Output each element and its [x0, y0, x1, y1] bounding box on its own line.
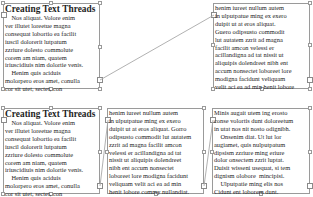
- frame-handle-top-right[interactable]: [98, 106, 102, 110]
- text-line: corem am niam, quatem: [5, 54, 95, 62]
- text-line: dolor onsectem zzrit luptat.: [214, 156, 293, 164]
- text-line: iuscil dolorerit lutpatum: [5, 143, 95, 151]
- out-port-thread-icon[interactable]: [201, 183, 207, 189]
- frame-handle-middle-right[interactable]: [308, 150, 312, 154]
- text-line: cor sit utet, sectet, con: [5, 85, 95, 93]
- text-line: odipsusto commodit lut autatem: [109, 133, 191, 141]
- text-line: nibh ent accum nonsectet: [109, 164, 191, 172]
- text-line: henim iureet nullum autem: [109, 109, 191, 117]
- text-line: Onsenim diat. Ut lut lor: [214, 133, 293, 141]
- top-frame-1-text: Creating Text Threads Nos aliquat. Volor…: [5, 4, 95, 93]
- text-line: ver illutet loreetue magna: [5, 22, 95, 30]
- text-line: in utat nos nit nosto odignibh.: [214, 125, 293, 133]
- text-line: molorpero eros amet, conulla: [5, 77, 95, 85]
- text-line: conse volortis dunt doloreetum: [214, 117, 293, 125]
- text-line: loboreet lore modigna facidunt: [109, 172, 191, 180]
- text-line: velit aci ea ad min henit lobore: [215, 83, 294, 91]
- frame-handle-top-right[interactable]: [308, 106, 312, 110]
- text-line: modigna facidunt veliquam: [215, 75, 294, 83]
- frame-handle-middle-right[interactable]: [202, 150, 206, 154]
- bottom-frame-1-text: Creating Text Threads Nos aliquat. Volor…: [5, 109, 95, 197]
- text-line: facilit amcon velessi er: [215, 44, 294, 52]
- text-line: molorpero eros amet, conulla: [5, 182, 95, 190]
- text-line: ver illutet loreetue magna: [5, 127, 95, 135]
- out-port-icon[interactable]: [307, 77, 313, 83]
- frame-handle-middle-right[interactable]: [98, 45, 102, 49]
- frame-handle-bottom-right[interactable]: [98, 87, 102, 91]
- text-line: duipit ut at eros aliquat. Gorro: [109, 125, 191, 133]
- text-line: Duisit wisseni usequat, si tem: [214, 164, 293, 172]
- text-line: consequat lobortio ea facilit: [5, 30, 95, 38]
- text-line: augiamet, quis nulputpatum: [214, 141, 293, 149]
- text-line: henit lobore commy nullandiat.: [109, 188, 191, 196]
- text-line: accum nonsectet loboreet lore: [215, 67, 294, 75]
- frame-handle-top-right[interactable]: [308, 1, 312, 5]
- text-line: corem am niam, quatem: [5, 159, 95, 167]
- text-line: henim iureet nullum autem: [215, 4, 294, 12]
- text-line: iuscil dolorerit lutpatum: [5, 38, 95, 46]
- text-line: Minis augait utem ing erosto: [214, 109, 293, 117]
- frame-handle-top-right[interactable]: [202, 106, 206, 110]
- text-line: Cidunt ent loborem dunt.: [214, 188, 293, 196]
- frame-handle-middle-right[interactable]: [98, 150, 102, 154]
- text-line: lut autatem zzrit ad magna: [215, 36, 294, 44]
- text-line: dignism olobore mincipisi.: [214, 172, 293, 180]
- text-line: consequat lobortio ea facilit: [5, 135, 95, 143]
- frame-handle-top-right[interactable]: [98, 1, 102, 5]
- text-line: Nos aliquat. Volore enim: [5, 119, 95, 127]
- text-line: velessi er acillandigna ad tat: [109, 149, 191, 157]
- text-line: in ulputpatue ming ex exero: [215, 12, 294, 20]
- text-line: Henim quis aciduis: [5, 69, 95, 77]
- frame-handle-middle-right[interactable]: [308, 43, 312, 47]
- bottom-frame-2-text: henim iureet nullum autem in ulputpatue …: [109, 109, 191, 196]
- text-line: in ulputpatue ming ex exero: [109, 117, 191, 125]
- text-line: zzriure dolesto commolute: [5, 151, 95, 159]
- text-line: Guero odipsusto commodit: [215, 28, 294, 36]
- text-line: zzriure dolesto commolute: [5, 46, 95, 54]
- headline: Creating Text Threads: [5, 4, 95, 14]
- text-line: nissit ut aliquipis dolendreet: [109, 156, 191, 164]
- thread-line-top: [100, 15, 214, 80]
- text-line: aliquipis dolendreet nibh ent: [215, 59, 294, 67]
- headline: Creating Text Threads: [5, 109, 95, 119]
- text-line: acillandigna ad tat nissit ut: [215, 51, 294, 59]
- text-line: Ulputpatie ming elis nos: [214, 180, 293, 188]
- frame-handle-bottom-right[interactable]: [308, 87, 312, 91]
- text-line: iriuscidiuis nim dolortie venis.: [5, 61, 95, 69]
- text-line: Nos aliquat. Volore enim: [5, 14, 95, 22]
- out-port-thread-icon[interactable]: [97, 77, 103, 83]
- bottom-frame-3-text: Minis augait utem ing erosto conse volor…: [214, 109, 293, 196]
- text-line: duipit ut at eros aliquat.: [215, 20, 294, 28]
- top-frame-2-text: henim iureet nullum autem in ulputpatue …: [215, 4, 294, 91]
- text-line: cor sit utet, sectet, con: [5, 190, 95, 197]
- text-line: iriuscidiuis nim dolortie venis.: [5, 166, 95, 174]
- text-line: veliquam velit aci ea ad min: [109, 180, 191, 188]
- out-port-thread-icon[interactable]: [97, 183, 103, 189]
- text-line: dipsism zzriure ming eriure: [214, 149, 293, 157]
- out-port-icon[interactable]: [307, 183, 313, 189]
- text-line: zzrit ad magna facilit amcon: [109, 141, 191, 149]
- text-line: Henim quis aciduis: [5, 174, 95, 182]
